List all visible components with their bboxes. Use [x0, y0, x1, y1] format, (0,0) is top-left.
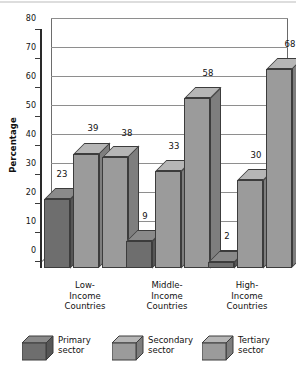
- legend-line-1: Tertiary: [238, 335, 270, 345]
- bar-front-face: [266, 69, 292, 268]
- bar-chart: Percentage 80 70 60 50 40 30 20 10 0: [0, 0, 296, 373]
- tertiary-sector-swatch-icon: [202, 335, 234, 361]
- category-line-1: Middle-: [127, 280, 207, 291]
- gridline-60: [51, 76, 288, 77]
- category-line-3: Countries: [45, 301, 125, 312]
- category-line-3: Countries: [127, 301, 207, 312]
- category-line-2: Income: [127, 291, 207, 302]
- bar-high-income-tertiary[interactable]: [266, 69, 292, 268]
- category-line-3: Countries: [207, 301, 287, 312]
- tickmark-20: [35, 203, 40, 204]
- y-tick-70: 70: [16, 44, 36, 52]
- tickmark-60: [35, 87, 40, 88]
- legend-line-1: Primary: [58, 335, 91, 345]
- bar-low-income-secondary[interactable]: [73, 154, 99, 268]
- category-line-1: High-: [207, 280, 287, 291]
- bar-label-low-secondary: 39: [80, 124, 106, 133]
- tickmark-30: [35, 174, 40, 175]
- y-tick-0: 0: [16, 247, 36, 255]
- bar-front-face: [184, 98, 210, 268]
- bar-middle-income-tertiary[interactable]: [184, 98, 210, 268]
- primary-sector-swatch-icon: [22, 335, 54, 361]
- tickmark-10: [35, 232, 40, 233]
- legend-line-2: sector: [148, 345, 193, 355]
- legend-line-2: sector: [58, 345, 91, 355]
- category-line-2: Income: [207, 291, 287, 302]
- y-tick-40: 40: [16, 131, 36, 139]
- tickmark-0: [35, 261, 40, 262]
- category-label-high-income: High- Income Countries: [207, 280, 287, 312]
- tickmark-80: [35, 29, 40, 30]
- scan-artifact: [0, 1, 296, 3]
- bar-front-face: [44, 199, 70, 268]
- tickmark-40: [35, 145, 40, 146]
- bar-label-low-tertiary: 38: [114, 129, 140, 138]
- bar-label-middle-tertiary: 58: [195, 69, 221, 78]
- category-line-2: Income: [45, 291, 125, 302]
- chart-legend: Primary sector Secondary sector: [22, 330, 292, 370]
- bar-high-income-secondary[interactable]: [237, 180, 263, 268]
- tickmark-50: [35, 116, 40, 117]
- bar-front-face: [237, 180, 263, 268]
- y-axis-tick-labels: 80 70 60 50 40 30 20 10 0: [14, 0, 36, 373]
- category-label-middle-income: Middle- Income Countries: [127, 280, 207, 312]
- category-line-1: Low-: [45, 280, 125, 291]
- y-tick-30: 30: [16, 160, 36, 168]
- gridline-70: [51, 47, 288, 48]
- bar-front-face: [208, 262, 234, 268]
- bar-label-low-primary: 23: [49, 170, 75, 179]
- bar-high-income-primary[interactable]: [208, 262, 234, 268]
- bar-middle-income-secondary[interactable]: [155, 171, 181, 268]
- bar-front-face: [102, 157, 128, 268]
- y-tick-50: 50: [16, 102, 36, 110]
- primary-sector-label: Primary sector: [58, 335, 91, 355]
- tickmark-70: [35, 58, 40, 59]
- y-tick-60: 60: [16, 73, 36, 81]
- bar-front-face: [126, 241, 152, 268]
- category-label-low-income: Low- Income Countries: [45, 280, 125, 312]
- gridline-40: [51, 134, 288, 135]
- bar-middle-income-primary[interactable]: [126, 241, 152, 268]
- y-axis-line: [40, 29, 42, 268]
- gridline-80: [51, 18, 288, 19]
- bar-front-face: [73, 154, 99, 268]
- y-tick-20: 20: [16, 189, 36, 197]
- legend-line-2: sector: [238, 345, 270, 355]
- bar-low-income-primary[interactable]: [44, 199, 70, 268]
- bar-low-income-tertiary[interactable]: [102, 157, 128, 268]
- gridline-50: [51, 105, 288, 106]
- legend-line-1: Secondary: [148, 335, 193, 345]
- bar-front-face: [155, 171, 181, 268]
- plot-area: 23 39 38 9 33: [40, 18, 288, 268]
- bar-label-high-tertiary: 68: [277, 40, 296, 49]
- secondary-sector-label: Secondary sector: [148, 335, 193, 355]
- y-tick-80: 80: [16, 15, 36, 23]
- secondary-sector-swatch-icon: [112, 335, 144, 361]
- y-tick-10: 10: [16, 218, 36, 226]
- bar-side-face: [292, 58, 296, 268]
- tertiary-sector-label: Tertiary sector: [238, 335, 270, 355]
- bar-side-face: [210, 87, 221, 268]
